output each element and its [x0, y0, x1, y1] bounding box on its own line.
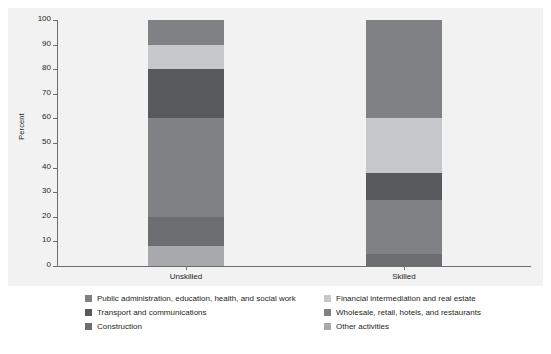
legend-swatch-icon [85, 309, 92, 316]
legend: Public administration, education, health… [8, 292, 543, 346]
y-axis-tick-label: 10 [42, 235, 51, 244]
bar-segment [366, 20, 442, 118]
x-axis-tick-skilled [404, 266, 405, 270]
y-axis-tick: 70 [0, 94, 62, 95]
bar-segment [148, 118, 224, 216]
y-axis-tick-mark [53, 69, 58, 70]
y-axis-tick-mark [53, 94, 58, 95]
x-axis-tick-unskilled [186, 266, 187, 270]
y-axis-tick-label: 80 [42, 63, 51, 72]
bar-segment [148, 20, 224, 45]
legend-swatch-icon [324, 295, 331, 302]
y-axis-tick-label: 50 [42, 137, 51, 146]
y-axis-tick: 60 [0, 118, 62, 119]
chart-figure: Percent 1009080706050403020100 Unskilled… [0, 0, 551, 354]
bar-segment [148, 217, 224, 247]
y-axis-tick-mark [53, 20, 58, 21]
y-axis-tick-mark [53, 217, 58, 218]
y-axis-tick: 40 [0, 168, 62, 169]
y-axis-tick-label: 60 [42, 112, 51, 121]
y-axis-tick-label: 100 [38, 14, 51, 23]
y-axis-tick-label: 0 [47, 260, 51, 269]
y-axis-tick-mark [53, 118, 58, 119]
bar-segment [148, 246, 224, 266]
y-axis-tick-mark [53, 192, 58, 193]
stacked-bar-unskilled [148, 20, 224, 266]
legend-swatch-icon [324, 309, 331, 316]
y-axis-tick-mark [53, 241, 58, 242]
x-axis-label-skilled: Skilled [344, 272, 464, 281]
legend-swatch-icon [85, 295, 92, 302]
bar-segment [366, 173, 442, 200]
y-axis-tick-mark [53, 143, 58, 144]
y-axis-tick: 20 [0, 217, 62, 218]
legend-item-label: Construction [97, 320, 142, 333]
bar-segment [366, 254, 442, 266]
x-axis-label-unskilled: Unskilled [126, 272, 246, 281]
y-axis-tick: 0 [0, 266, 62, 267]
y-axis-tick: 30 [0, 192, 62, 193]
legend-item-label: Wholesale, retail, hotels, and restauran… [336, 306, 481, 319]
y-axis-tick-label: 40 [42, 162, 51, 171]
bar-segment [366, 118, 442, 172]
y-axis-tick: 90 [0, 45, 62, 46]
plot-panel [8, 8, 543, 286]
bar-segment [366, 200, 442, 254]
y-axis-tick: 100 [0, 20, 62, 21]
y-axis-tick-mark [53, 45, 58, 46]
y-axis-tick: 50 [0, 143, 62, 144]
legend-swatch-icon [85, 323, 92, 330]
stacked-bar-skilled [366, 20, 442, 266]
y-axis-tick-label: 90 [42, 39, 51, 48]
y-axis-tick-mark [53, 266, 58, 267]
bar-segment [148, 45, 224, 70]
x-axis-line [57, 266, 531, 267]
y-axis-tick-label: 20 [42, 211, 51, 220]
legend-item-label: Transport and communications [97, 306, 207, 319]
legend-swatch-icon [324, 323, 331, 330]
legend-item-label: Financial intermediation and real estate [336, 292, 476, 305]
legend-item-label: Other activities [336, 320, 389, 333]
legend-item-label: Public administration, education, health… [97, 292, 296, 305]
y-axis-tick: 80 [0, 69, 62, 70]
y-axis-tick-label: 70 [42, 88, 51, 97]
y-axis-tick-mark [53, 168, 58, 169]
y-axis-tick-label: 30 [42, 186, 51, 195]
y-axis-tick: 10 [0, 241, 62, 242]
bar-segment [148, 69, 224, 118]
y-axis-title: Percent [17, 97, 26, 157]
